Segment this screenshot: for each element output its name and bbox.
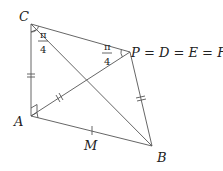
label-M: M bbox=[83, 138, 98, 153]
svg-text:4: 4 bbox=[104, 56, 110, 67]
label-A: A bbox=[13, 114, 23, 129]
label-P: P = D = E = F bbox=[130, 45, 223, 60]
label-C: C bbox=[19, 9, 29, 24]
svg-text:4: 4 bbox=[40, 44, 46, 55]
segment-CB bbox=[31, 24, 152, 146]
segment-PB bbox=[130, 52, 152, 146]
geometry-diagram: C P = D = E = F A B M π 4 π 4 bbox=[0, 0, 223, 171]
angle-label-C: π 4 bbox=[38, 29, 48, 55]
angle-label-P: π 4 bbox=[102, 41, 112, 67]
svg-text:π: π bbox=[104, 41, 111, 52]
segment-AP bbox=[31, 52, 130, 116]
angle-arc-P bbox=[121, 50, 122, 58]
right-angle-A bbox=[31, 105, 37, 117]
svg-text:π: π bbox=[40, 29, 47, 40]
label-B: B bbox=[156, 150, 167, 165]
